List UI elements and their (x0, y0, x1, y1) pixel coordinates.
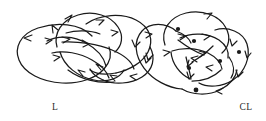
arrowhead-icon (130, 74, 137, 80)
arrowhead-icon (206, 65, 213, 71)
arrowheads-left (24, 15, 153, 81)
diagram-label-left: L (52, 102, 58, 112)
strand-left-center-connector-upper (66, 31, 100, 34)
strand-left-loop-a-tail (104, 47, 110, 69)
diagram-right-CL: CL (136, 12, 252, 112)
arrowhead-icon (96, 64, 103, 70)
strand-left-loop-b-lower (60, 52, 124, 81)
strand-right-inner-lower (192, 70, 221, 81)
crossing-dot (176, 27, 180, 31)
arrowhead-icon (187, 60, 193, 67)
strand-right-lobe-right (199, 29, 248, 86)
arrowhead-icon (216, 88, 223, 94)
strand-right-lobe-top (164, 12, 229, 53)
arrowhead-icon (96, 20, 104, 25)
arrowhead-icon (230, 39, 237, 46)
arrowhead-icon (53, 55, 60, 61)
crossing-dot (194, 88, 199, 93)
arrowhead-icon (204, 13, 212, 19)
diagram-left-L: L (17, 13, 153, 112)
crossing-dot (237, 50, 241, 54)
crossing-dot (218, 59, 222, 63)
crossing-dot (192, 39, 196, 43)
arrowhead-icon (163, 50, 170, 56)
knot-diagram-figure: L (0, 0, 266, 121)
figure-root: L (0, 0, 266, 121)
diagram-label-right: CL (240, 102, 253, 112)
strand-right-lobe-left (136, 24, 182, 89)
arrowhead-icon (111, 30, 118, 36)
strand-right-right-closing (229, 57, 233, 78)
